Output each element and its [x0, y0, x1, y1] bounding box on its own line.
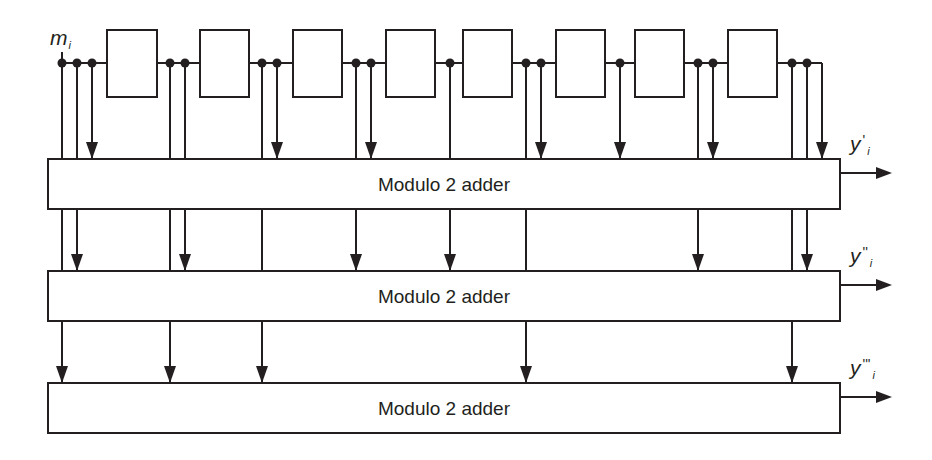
junction-dot-icon — [88, 59, 97, 68]
tap-arrow-icon — [179, 254, 191, 271]
junction-dot-icon — [522, 59, 531, 68]
junction-dot-icon — [788, 59, 797, 68]
junction-dot-icon — [367, 59, 376, 68]
tap-arrow-icon — [535, 142, 547, 159]
register-stage-8 — [728, 30, 777, 97]
tap-arrow-icon — [614, 142, 626, 159]
input-label: mi — [50, 26, 72, 51]
register-stage-3 — [293, 30, 342, 97]
junction-dot-icon — [694, 59, 703, 68]
tap-arrow-icon — [71, 254, 83, 271]
register-stage-7 — [635, 30, 684, 97]
output-arrow-icon — [876, 167, 892, 179]
register-stage-2 — [200, 30, 249, 97]
adder-label-3: Modulo 2 adder — [378, 398, 511, 419]
tap-arrow-icon — [256, 366, 268, 383]
output-label-1: y'i — [848, 132, 870, 157]
connection-wires — [56, 52, 892, 403]
tap-arrow-icon — [86, 142, 98, 159]
tap-arrow-icon — [271, 142, 283, 159]
tap-arrow-icon — [692, 254, 704, 271]
tap-arrow-icon — [444, 254, 456, 271]
tap-arrow-icon — [801, 254, 813, 271]
tap-arrow-icon — [56, 366, 68, 383]
convolutional-encoder-diagram: Modulo 2 adderModulo 2 adderModulo 2 add… — [0, 0, 932, 460]
tap-arrow-icon — [786, 366, 798, 383]
junction-dot-icon — [58, 59, 67, 68]
junction-dot-icon — [181, 59, 190, 68]
tap-arrow-icon — [707, 142, 719, 159]
junction-dot-icon — [537, 59, 546, 68]
modulo-2-adders: Modulo 2 adderModulo 2 adderModulo 2 add… — [48, 159, 840, 433]
junction-dot-icon — [803, 59, 812, 68]
junction-dot-icon — [446, 59, 455, 68]
output-arrow-icon — [876, 391, 892, 403]
junction-dot-icon — [709, 59, 718, 68]
junction-dot-icon — [273, 59, 282, 68]
register-stage-1 — [107, 30, 157, 97]
junction-dot-icon — [73, 59, 82, 68]
tap-arrow-icon — [520, 366, 532, 383]
register-stage-4 — [386, 30, 435, 97]
adder-label-2: Modulo 2 adder — [378, 286, 511, 307]
output-label-2: y''i — [848, 244, 873, 269]
register-stage-5 — [463, 30, 512, 97]
tap-arrow-icon — [816, 142, 828, 159]
adder-label-1: Modulo 2 adder — [378, 174, 511, 195]
output-label-3: y'''i — [848, 356, 876, 381]
output-arrow-icon — [876, 279, 892, 291]
junction-dot-icon — [616, 59, 625, 68]
tap-arrow-icon — [365, 142, 377, 159]
junction-dot-icon — [166, 59, 175, 68]
tap-arrow-icon — [350, 254, 362, 271]
junction-dot-icon — [352, 59, 361, 68]
tap-arrow-icon — [164, 366, 176, 383]
junction-dot-icon — [258, 59, 267, 68]
register-stage-6 — [556, 30, 605, 97]
